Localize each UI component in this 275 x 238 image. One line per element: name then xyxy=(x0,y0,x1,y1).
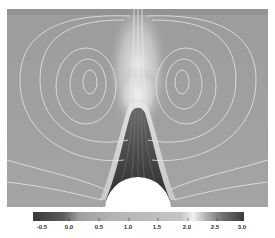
colorbar-tick: 1.5 xyxy=(153,224,162,230)
colorbar-tick: -0.5 xyxy=(37,224,48,230)
colorbar-tick-labels: -0.5 0.0 0.5 1.0 1.5 2.0 2.5 3.0 xyxy=(37,224,247,230)
colorbar-tick: 2.0 xyxy=(183,224,192,230)
contour-field xyxy=(7,0,268,238)
colorbar-tick: 0.5 xyxy=(95,224,104,230)
colorbar-tick: 0.0 xyxy=(65,224,74,230)
colorbar-tick: 3.0 xyxy=(238,224,247,230)
contour-figure: -0.5 0.0 0.5 1.0 1.5 2.0 2.5 3.0 xyxy=(0,0,275,238)
colorbar: -0.5 0.0 0.5 1.0 1.5 2.0 2.5 3.0 xyxy=(33,212,247,230)
colorbar-tick: 2.5 xyxy=(211,224,220,230)
colorbar-tick: 1.0 xyxy=(124,224,133,230)
